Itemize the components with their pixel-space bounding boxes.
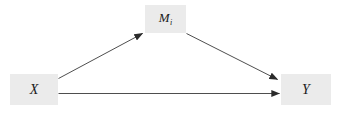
node-x: X	[10, 74, 58, 105]
node-m-label-subscript: i	[170, 18, 173, 27]
arrow-m-to-y	[187, 34, 278, 80]
arrow-x-to-m	[59, 34, 143, 79]
node-m-label: Mi	[159, 11, 172, 26]
node-y-label: Y	[302, 83, 310, 97]
node-x-label: X	[30, 83, 39, 97]
mediation-diagram: X Mi Y	[0, 0, 338, 114]
node-m-label-base: M	[159, 10, 170, 25]
node-m: Mi	[145, 5, 186, 33]
node-y: Y	[281, 74, 331, 105]
